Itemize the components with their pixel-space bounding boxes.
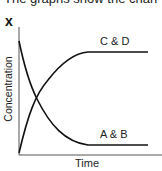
x-axis-label: Time (75, 157, 99, 169)
y-axis-label: Concentration (2, 55, 14, 123)
series-label-c-and-d: C & D (100, 35, 129, 47)
series-label-a-and-b: A & B (100, 128, 128, 140)
concentration-time-chart (0, 0, 162, 171)
